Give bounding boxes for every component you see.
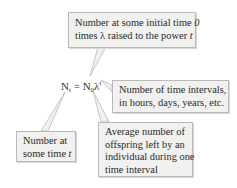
variable-t: t bbox=[69, 148, 72, 159]
callout-initial-line2: times λ raised to the power t bbox=[75, 30, 190, 43]
callout-intervals-line1: Number of time intervals, bbox=[119, 84, 223, 97]
callout-initial-line1: Number at some initial time 0 bbox=[75, 17, 190, 30]
variable-t: t bbox=[190, 30, 193, 41]
eq-rhs-n: N bbox=[83, 80, 91, 92]
callout-offspring-line4: time interval bbox=[105, 164, 187, 177]
eq-exponent: t bbox=[99, 79, 101, 87]
eq-lhs-sub: t bbox=[69, 86, 71, 94]
eq-lhs-n: N bbox=[61, 80, 69, 92]
leader-initial bbox=[90, 47, 106, 76]
leader-number-at-t bbox=[41, 92, 65, 131]
growth-equation: Nt = N0λt bbox=[61, 77, 101, 97]
variable-zero: 0 bbox=[194, 17, 199, 28]
callout-number-line2: some time t bbox=[23, 148, 70, 161]
text: Number at some initial time bbox=[75, 17, 194, 28]
callout-initial-number: Number at some initial time 0 times λ ra… bbox=[68, 12, 196, 48]
text: times λ raised to the power bbox=[75, 30, 190, 41]
callout-offspring-line1: Average number of bbox=[105, 126, 187, 139]
callout-time-intervals: Number of time intervals, in hours, days… bbox=[112, 80, 229, 113]
callout-average-offspring: Average number of offspring left by an i… bbox=[98, 122, 193, 177]
eq-equals: = bbox=[74, 80, 80, 92]
leader-intervals bbox=[101, 80, 112, 92]
callout-intervals-line2: in hours, days, years, etc. bbox=[119, 97, 223, 110]
callout-offspring-line2: offspring left by an bbox=[105, 139, 187, 152]
callout-number-at-time-t: Number at some time t bbox=[16, 131, 76, 162]
text: some time bbox=[23, 148, 69, 159]
callout-number-line1: Number at bbox=[23, 135, 70, 148]
callout-offspring-line3: individual during one bbox=[105, 151, 187, 164]
